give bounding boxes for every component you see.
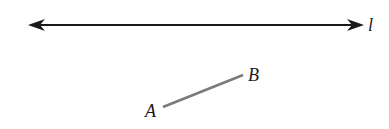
geometry-diagram: l A B [0, 0, 389, 129]
point-a-label: A [144, 101, 157, 121]
point-b-label: B [248, 65, 259, 85]
segment-ab: A B [144, 65, 259, 121]
line-label: l [368, 15, 373, 35]
line-l: l [28, 15, 373, 35]
